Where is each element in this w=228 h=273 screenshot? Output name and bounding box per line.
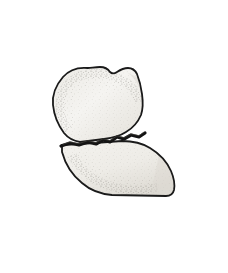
bone-fracture-illustration: [0, 0, 228, 273]
figure-root: Line drawing of a bone specimen split by…: [0, 0, 228, 273]
